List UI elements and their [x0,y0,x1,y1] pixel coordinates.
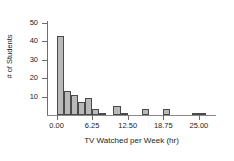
histogram-bar [142,109,149,115]
x-axis-tick [199,115,200,120]
x-axis-tick-label: 6.25 [77,121,107,130]
y-axis-tick [42,41,47,42]
x-axis-line [47,115,216,116]
x-axis-tick-label: 0.00 [42,121,72,130]
y-axis-title: # of Students [5,20,14,94]
y-axis-tick-label: 10 [20,93,38,101]
histogram-bar [64,91,71,115]
histogram-bar [92,109,99,115]
histogram-bar [199,113,206,115]
y-axis-tick [42,60,47,61]
histogram-bar [57,36,64,115]
histogram-bar [113,106,120,115]
histogram-bar [78,102,85,115]
y-axis-tick-label: 50 [20,19,38,27]
y-axis-tick-label: 20 [20,74,38,82]
histogram-bar [192,113,199,115]
x-axis-title: TV Watched per Week (hr) [47,136,216,146]
y-axis-tick-labels: 1020304050 [14,0,38,161]
histogram-figure: 1020304050 # of Students TV Watched per … [0,0,234,161]
x-axis-tick-label: 18.75 [148,121,178,130]
y-axis-tick [42,97,47,98]
y-axis-tick-label: 40 [20,37,38,45]
plot-area [48,23,216,115]
y-axis-tick [42,78,47,79]
y-axis-tick [42,23,47,24]
x-axis-tick [92,115,93,120]
x-axis-tick-label: 25.00 [184,121,214,130]
histogram-bar [99,113,106,115]
x-axis-tick [57,115,58,120]
x-axis-tick-label: 12.50 [113,121,143,130]
histogram-bar [85,98,92,115]
histogram-bar [71,95,78,115]
histogram-bar [163,109,170,115]
x-axis-tick [128,115,129,120]
y-axis-tick-label: 30 [20,56,38,64]
x-axis-tick [163,115,164,120]
histogram-bar [121,113,128,115]
